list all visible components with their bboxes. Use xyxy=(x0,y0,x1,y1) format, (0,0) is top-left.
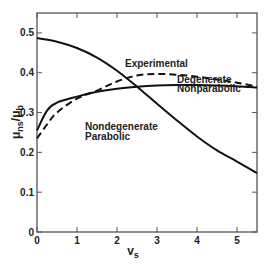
mobility-ratio-chart: 01234500.10.20.30.40.5vsμns/μbExperiment… xyxy=(0,0,271,265)
x-tick-label: 1 xyxy=(74,235,80,246)
y-tick-label: 0 xyxy=(28,227,34,238)
x-tick-label: 5 xyxy=(234,235,240,246)
annotation-label: Nonparabolic xyxy=(177,83,241,94)
y-tick-label: 0.4 xyxy=(20,67,34,78)
chart-svg: 01234500.10.20.30.40.5vsμns/μbExperiment… xyxy=(0,0,271,265)
plot-area: 01234500.10.20.30.40.5vsμns/μbExperiment… xyxy=(9,13,257,260)
x-tick-label: 4 xyxy=(194,235,200,246)
y-axis-label: μns/μb xyxy=(9,104,25,139)
annotation-label: Parabolic xyxy=(85,131,130,142)
annotation-label: Experimental xyxy=(125,58,188,69)
x-axis-label: vs xyxy=(127,244,139,260)
y-tick-label: 0.5 xyxy=(20,27,34,38)
x-tick-label: 2 xyxy=(114,235,120,246)
x-tick-label: 0 xyxy=(34,235,40,246)
x-tick-label: 3 xyxy=(154,235,160,246)
y-tick-label: 0.2 xyxy=(20,147,34,158)
y-tick-label: 0.1 xyxy=(20,187,34,198)
